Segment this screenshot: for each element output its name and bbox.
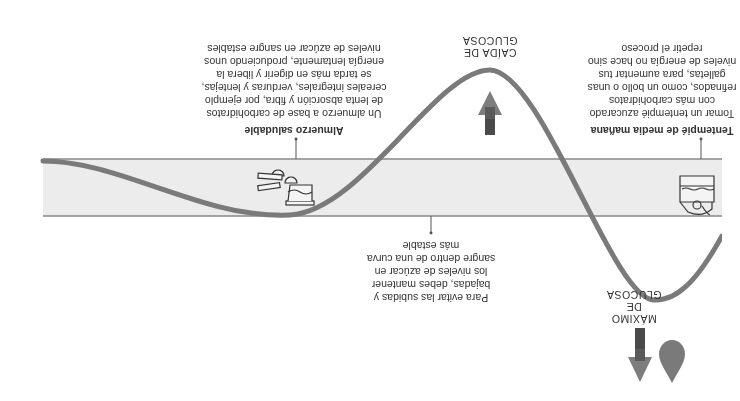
snack-line: repetir el proceso [572, 42, 740, 55]
lunch-line: cereales integrales, verduras y lentejas… [179, 81, 409, 94]
lunch-line: se tarda más en digerir y libera la [179, 68, 409, 81]
snack-line: galletas, para aumentar tus [572, 68, 740, 81]
lunch-line: niveles de azúcar en sangre estables [179, 42, 409, 55]
snack-line: con más carbohidratos [572, 94, 740, 107]
lunch-callout: Almuerzo saludable Un almuerzo a base de… [179, 42, 409, 137]
stable-line: más estable [346, 239, 516, 252]
blood-drop-icon [659, 340, 685, 383]
arrow-up-icon [628, 328, 652, 382]
peak-glucose-label: MÁXIMO DE GLUCOSA [604, 289, 664, 325]
stable-line: Para evitar las subidas y [346, 291, 516, 304]
lunch-line: energía lentamente, produciendo unos [179, 55, 409, 68]
snack-line: niveles de energía no hace sino [572, 55, 740, 68]
stable-line: sangre dentro de una curva [346, 252, 516, 265]
arrow-down-icon [478, 91, 502, 135]
lunch-line: Un almuerzo a base de carbohidratos [179, 107, 409, 120]
lunch-title: Almuerzo saludable [179, 124, 409, 137]
snack-line: refinados, como un bollo o unas [572, 81, 740, 94]
stable-line: bajadas, debes mantener [346, 278, 516, 291]
snack-callout: Tentempié de media mañana Tomar un tente… [572, 42, 740, 137]
stable-curve-callout: Para evitar las subidas y bajadas, debes… [346, 239, 516, 304]
stable-range-band [43, 159, 722, 216]
drop-glucose-label: CAÍDA DE GLUCOSA [460, 35, 520, 59]
lunch-line: de lenta absorción y fibra, por ejemplo [179, 94, 409, 107]
snack-title: Tentempié de media mañana [572, 124, 740, 137]
snack-line: Tomar un tentempié azucarado [572, 107, 740, 120]
stable-line: los niveles de azúcar en [346, 265, 516, 278]
